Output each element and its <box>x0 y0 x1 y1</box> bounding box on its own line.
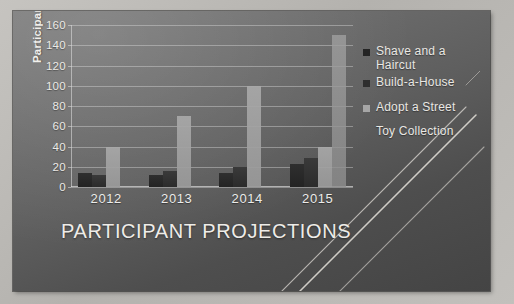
y-axis-tick-label: 40 <box>53 141 66 153</box>
y-axis-tick-label: 100 <box>46 80 66 92</box>
y-axis-tickmark <box>68 187 71 188</box>
legend-swatch-icon <box>363 49 370 56</box>
legend-swatch-icon <box>363 129 370 136</box>
gridline <box>71 187 353 188</box>
y-axis-tick-label: 120 <box>46 60 66 72</box>
y-axis-tick-label: 60 <box>53 120 66 132</box>
bar <box>318 147 332 188</box>
slide-root: Participants 160140120100806040200 20122… <box>0 0 514 304</box>
chart-legend: Shave and aHaircutBuild-a-HouseAdopt a S… <box>363 45 490 143</box>
legend-item[interactable]: Adopt a Street <box>363 101 490 115</box>
x-axis-category-label: 2013 <box>142 191 213 213</box>
y-axis-tick-label: 160 <box>46 19 66 31</box>
bar <box>106 147 120 188</box>
bar <box>177 116 191 187</box>
bar-group <box>283 25 354 187</box>
x-axis-category-label: 2012 <box>71 191 142 213</box>
x-axis-category-label: 2015 <box>283 191 354 213</box>
legend-swatch-icon <box>363 80 370 87</box>
slide-panel: Participants 160140120100806040200 20122… <box>13 11 490 291</box>
bar-group <box>71 25 142 187</box>
legend-item[interactable]: Toy Collection <box>363 125 490 139</box>
bar-groups <box>71 25 353 187</box>
bar <box>247 86 261 187</box>
x-axis-category-labels: 2012201320142015 <box>71 191 353 213</box>
bar-group <box>212 25 283 187</box>
bar <box>233 167 247 187</box>
bar <box>78 173 92 187</box>
y-axis-tick-label: 0 <box>59 181 66 193</box>
bar <box>332 35 346 187</box>
y-axis-tick-label: 80 <box>53 100 66 112</box>
bar <box>219 173 233 187</box>
bar <box>149 175 163 187</box>
y-axis-tick-label: 20 <box>53 161 66 173</box>
bar <box>92 175 106 187</box>
legend-label: Toy Collection <box>376 125 454 139</box>
x-axis-category-label: 2014 <box>212 191 283 213</box>
legend-label: Build-a-House <box>376 76 455 90</box>
plot-area: 160140120100806040200 <box>71 25 353 187</box>
legend-item[interactable]: Shave and aHaircut <box>363 45 490 72</box>
bar-group <box>142 25 213 187</box>
y-axis-title: Participants <box>31 11 43 63</box>
legend-label: Adopt a Street <box>376 101 456 115</box>
legend-item[interactable]: Build-a-House <box>363 76 490 90</box>
chart-title: PARTICIPANT PROJECTIONS <box>61 220 351 243</box>
legend-swatch-icon <box>363 105 370 112</box>
legend-label: Shave and aHaircut <box>376 45 446 72</box>
y-axis-tick-label: 140 <box>46 39 66 51</box>
bar <box>290 164 304 187</box>
bar <box>304 158 318 187</box>
bar <box>163 171 177 187</box>
